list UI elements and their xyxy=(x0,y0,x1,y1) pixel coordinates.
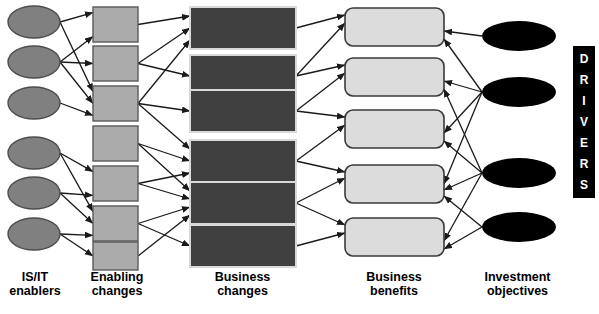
connector-arrow xyxy=(60,193,93,195)
drivers-letter: E xyxy=(580,137,588,149)
enabling-change-node[interactable] xyxy=(93,86,138,121)
connector-arrow xyxy=(444,31,482,36)
connector-arrow xyxy=(296,178,345,203)
column-label-is-it-enablers: IS/IT enablers xyxy=(0,270,70,298)
column-label-investment-objectives: Investment objectives xyxy=(455,270,580,298)
column-label-business-benefits-line1: Business xyxy=(340,270,448,284)
connector-arrow xyxy=(296,161,345,172)
connector-arrow xyxy=(60,103,93,115)
business-benefit-node[interactable] xyxy=(345,165,444,203)
connector-arrow xyxy=(296,111,345,117)
is-it-enabler-node[interactable] xyxy=(8,218,60,250)
column-label-business-changes: Business changes xyxy=(185,270,300,298)
connector-arrow xyxy=(444,92,482,184)
drivers-letter: R xyxy=(580,74,589,86)
business-benefit-node[interactable] xyxy=(345,8,444,46)
connector-arrow xyxy=(296,125,345,161)
connector-arrow xyxy=(296,23,345,76)
column-label-investment-objectives-line2: objectives xyxy=(455,284,580,298)
drivers-letter: I xyxy=(582,95,585,107)
connector-arrow xyxy=(60,234,93,235)
connector-arrow xyxy=(138,16,190,25)
connector-arrow xyxy=(444,81,482,92)
column-label-is-it-enablers-line2: enablers xyxy=(0,284,70,298)
column-label-enabling-changes-line2: changes xyxy=(78,284,156,298)
business-benefit-node[interactable] xyxy=(345,110,444,148)
business-change-node[interactable] xyxy=(190,182,296,224)
business-change-node[interactable] xyxy=(190,140,296,182)
connector-arrow xyxy=(444,89,482,173)
column-label-enabling-changes: Enabling changes xyxy=(78,270,156,298)
investment-objective-node[interactable] xyxy=(482,158,556,188)
connector-arrow xyxy=(60,22,93,92)
enabling-change-node[interactable] xyxy=(93,7,138,42)
is-it-enabler-node[interactable] xyxy=(8,87,60,119)
connector-arrow xyxy=(444,39,482,92)
business-change-node[interactable] xyxy=(190,7,296,49)
enabling-change-node[interactable] xyxy=(93,166,138,201)
connector-arrow xyxy=(138,144,190,162)
is-it-enabler-node[interactable] xyxy=(8,177,60,209)
connector-arrow xyxy=(296,233,345,246)
business-change-node[interactable] xyxy=(190,90,296,132)
connector-arrow xyxy=(296,65,345,76)
column-label-business-benefits: Business benefits xyxy=(340,270,448,298)
connector-arrow xyxy=(138,184,190,200)
business-change-node[interactable] xyxy=(190,225,296,267)
column-label-business-changes-line1: Business xyxy=(185,270,300,284)
column-label-business-benefits-line2: benefits xyxy=(340,284,448,298)
connector-arrow xyxy=(60,193,93,224)
connector-arrow xyxy=(60,62,93,64)
connector-arrow xyxy=(444,196,482,227)
business-benefit-node[interactable] xyxy=(345,58,444,96)
investment-objective-node[interactable] xyxy=(482,21,556,51)
is-it-enabler-node[interactable] xyxy=(8,137,60,169)
column-label-business-changes-line2: changes xyxy=(185,284,300,298)
connector-arrow xyxy=(60,234,93,256)
connector-arrow xyxy=(138,28,190,64)
node-layer xyxy=(8,6,556,270)
enabling-change-node[interactable] xyxy=(93,242,138,270)
business-benefit-node[interactable] xyxy=(345,218,444,256)
connector-arrow xyxy=(138,40,190,104)
is-it-enabler-node[interactable] xyxy=(8,6,60,38)
drivers-letter: V xyxy=(580,116,588,128)
enabling-change-node[interactable] xyxy=(93,126,138,161)
column-label-enabling-changes-line1: Enabling xyxy=(78,270,156,284)
connector-arrow xyxy=(444,173,482,190)
connector-arrow xyxy=(138,144,190,192)
drivers-bar: DRIVERS xyxy=(573,46,595,198)
enabling-change-node[interactable] xyxy=(93,206,138,241)
drivers-letter: D xyxy=(580,53,589,65)
drivers-letter: S xyxy=(580,179,588,191)
investment-objective-node[interactable] xyxy=(482,77,556,107)
connector-arrow xyxy=(138,64,190,77)
enabling-change-node[interactable] xyxy=(93,46,138,81)
benefits-dependency-network-diagram xyxy=(0,0,599,314)
connector-arrow xyxy=(296,15,345,28)
connector-arrow xyxy=(444,92,482,133)
connector-arrow xyxy=(444,141,482,173)
is-it-enabler-node[interactable] xyxy=(8,46,60,78)
connector-arrow xyxy=(60,13,93,22)
connector-arrow xyxy=(60,62,93,104)
column-label-is-it-enablers-line1: IS/IT xyxy=(0,270,70,284)
connector-arrow xyxy=(138,173,190,184)
column-label-investment-objectives-line1: Investment xyxy=(455,270,580,284)
investment-objective-node[interactable] xyxy=(482,212,556,242)
drivers-letter: R xyxy=(580,158,589,170)
connector-arrow xyxy=(296,73,345,111)
connector-arrow xyxy=(296,203,345,225)
